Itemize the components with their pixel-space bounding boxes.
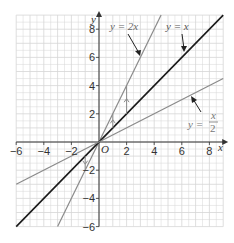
pointer-arrowhead-icon	[135, 50, 141, 56]
y-tick-label: 6	[89, 51, 95, 63]
x-tick-label: 2	[124, 145, 130, 157]
y-axis-label: y	[90, 13, 96, 25]
y-tick-label: 2	[89, 108, 95, 120]
origin-label: O	[101, 143, 109, 155]
x-tick-label: 6	[179, 145, 185, 157]
pointer-arrowhead-icon	[191, 96, 197, 103]
x-tick-label: −4	[38, 145, 51, 157]
label-lhs: y =	[187, 118, 203, 130]
x-tick-label: −6	[10, 145, 23, 157]
x-tick-label: 8	[206, 145, 212, 157]
label-y-equals-x: y = x	[165, 20, 189, 32]
label-numerator: x	[210, 109, 216, 121]
x-tick-label: 4	[151, 145, 157, 157]
label-denominator: 2	[210, 122, 216, 134]
y-tick-label: −2	[82, 164, 95, 176]
x-axis-arrow-icon	[222, 139, 228, 145]
line-graph: −6−4−224688642−2−4−6 x y O y = 2x y = x …	[0, 0, 234, 243]
label-y-equals-2x: y = 2x	[109, 20, 138, 32]
x-axis-label: x	[217, 141, 223, 153]
y-tick-label: −4	[82, 192, 95, 204]
y-tick-label: 4	[89, 80, 95, 92]
y-tick-label: −6	[82, 221, 95, 233]
x-tick-label: −2	[65, 145, 78, 157]
y-tick-label: 8	[89, 23, 95, 35]
y-axis-arrow-icon	[96, 11, 102, 17]
